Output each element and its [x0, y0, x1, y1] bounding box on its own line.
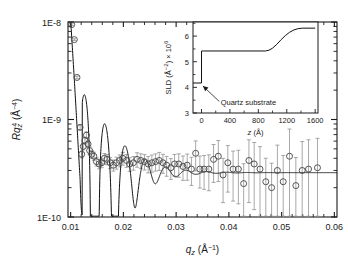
x-tick-label: 0.04 [220, 222, 238, 232]
inset-x-tick-label: 1200 [278, 116, 295, 125]
x-axis-title: qz (Å−1) [186, 243, 219, 257]
x-tick-label: 0.01 [62, 222, 80, 232]
inset-y-tick-label: 3 [185, 109, 189, 118]
inset-y-tick-label: 5 [185, 58, 189, 67]
x-tick-label: 0.03 [167, 222, 185, 232]
x-tick-label: 0.02 [115, 222, 133, 232]
inset-y-tick-label: 6 [185, 32, 189, 41]
x-tick-label: 0.05 [273, 222, 291, 232]
x-tick-label: 0.06 [326, 222, 344, 232]
reflectivity-figure: 0.010.020.030.040.050.061E-81E-91E-10qz … [0, 0, 350, 272]
inset-x-tick-label: 800 [252, 116, 265, 125]
inset-x-axis-title: z (Å) [247, 128, 264, 137]
y-tick-label: 1E-10 [37, 213, 61, 223]
inset-y-tick-label: 4 [185, 83, 189, 92]
inset-x-tick-label: 400 [224, 116, 237, 125]
annotation-label: Quartz substrate [221, 98, 276, 107]
y-tick-label: 1E-9 [42, 115, 61, 125]
inset-x-tick-label: 1600 [307, 116, 324, 125]
y-tick-label: 1E-8 [42, 18, 61, 28]
y-axis-title: Rqz4 (Å−4) [10, 99, 24, 141]
inset-y-axis-title: SLD (Å−2) × 106 [163, 40, 173, 94]
inset-x-tick-label: 0 [199, 116, 203, 125]
figure-canvas: 0.010.020.030.040.050.061E-81E-91E-10qz … [0, 0, 350, 272]
